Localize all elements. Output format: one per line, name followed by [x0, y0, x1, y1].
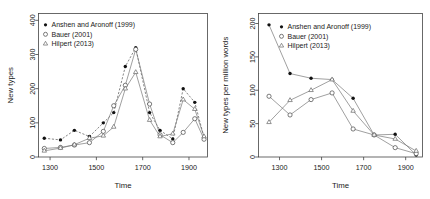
figure-root: 0100200300400 Anshen and Aronoff (1999)B… [0, 0, 430, 199]
x-axis-title: Time [332, 181, 349, 190]
data-point-filled-circle [102, 121, 105, 124]
series-line-0 [44, 48, 204, 140]
data-point-filled-circle [351, 97, 354, 100]
data-point-open-circle [181, 130, 185, 134]
plot-area-right: 050100150200 Anshen and Aronoff (1999)Ba… [248, 14, 423, 160]
data-point-filled-circle [73, 129, 76, 132]
y-tick-label: 0 [248, 155, 257, 159]
chart-panel-left: 0100200300400 Anshen and Aronoff (1999)B… [0, 0, 215, 199]
data-point-filled-circle [112, 111, 115, 114]
data-point-filled-circle [43, 137, 46, 140]
data-point-open-circle [171, 141, 175, 145]
data-point-open-circle [148, 102, 152, 106]
data-lines-left [44, 48, 204, 151]
legend-marker-filled-circle [280, 25, 283, 28]
y-axis-title: New types [6, 67, 15, 104]
series-line-1 [269, 93, 416, 154]
data-point-filled-circle [124, 65, 127, 68]
data-point-filled-circle [181, 87, 184, 90]
data-point-open-circle [193, 117, 197, 121]
legend-right: Anshen and Aronoff (1999)Bauer (2001)Hil… [279, 23, 371, 50]
data-point-filled-circle [393, 133, 396, 136]
legend-label-1: Bauer (2001) [52, 31, 93, 39]
data-point-open-triangle [147, 118, 152, 122]
axis-ticks-y-left: 0100200300400 [28, 14, 39, 159]
data-point-filled-circle [267, 23, 270, 26]
data-point-open-circle [267, 94, 271, 98]
data-point-open-triangle [171, 131, 176, 135]
data-point-open-triangle [101, 133, 106, 137]
y-tick-label: 100 [248, 84, 257, 96]
axis-ticks-y-right: 050100150200 [248, 18, 259, 159]
legend-label-0: Anshen and Aronoff (1999) [288, 23, 372, 31]
data-point-filled-circle [59, 138, 62, 141]
data-point-filled-circle [158, 129, 161, 132]
y-tick-label: 150 [248, 51, 257, 63]
data-point-open-circle [87, 141, 91, 145]
x-tick-label: 1700 [356, 163, 372, 172]
data-point-open-triangle [111, 124, 116, 128]
legend-marker-filled-circle [44, 23, 47, 26]
data-points-left [42, 46, 206, 152]
x-tick-label: 1300 [272, 163, 288, 172]
y-axis-title: New types per million words [221, 37, 230, 134]
data-point-filled-circle [171, 137, 174, 140]
data-point-open-circle [112, 104, 116, 108]
data-point-filled-circle [148, 111, 151, 114]
y-tick-label: 300 [28, 49, 37, 61]
data-point-filled-circle [193, 101, 196, 104]
legend-label-2: Hilpert (2013) [52, 40, 94, 48]
x-tick-label: 1500 [314, 163, 330, 172]
legend-marker-open-triangle [279, 43, 283, 47]
y-tick-label: 0 [28, 155, 37, 159]
x-tick-label: 1700 [135, 163, 151, 172]
data-point-filled-circle [288, 72, 291, 75]
data-point-open-triangle [133, 70, 138, 74]
data-point-open-circle [330, 91, 334, 95]
plot-area-left: 0100200300400 Anshen and Aronoff (1999)B… [28, 14, 208, 160]
chart-svg-left: 0100200300400 Anshen and Aronoff (1999)B… [0, 0, 215, 199]
data-point-open-circle [288, 113, 292, 117]
y-tick-label: 100 [28, 117, 37, 129]
data-point-open-triangle [193, 107, 198, 111]
chart-panel-right: 050100150200 Anshen and Aronoff (1999)Ba… [215, 0, 430, 199]
data-point-open-triangle [330, 77, 335, 81]
legend-marker-open-triangle [43, 41, 47, 45]
y-tick-label: 50 [248, 120, 257, 128]
data-point-open-circle [309, 98, 313, 102]
x-tick-label: 1900 [398, 163, 414, 172]
data-point-open-circle [134, 47, 138, 51]
y-tick-label: 200 [248, 18, 257, 30]
data-point-open-circle [351, 127, 355, 131]
x-tick-label: 1900 [181, 163, 197, 172]
chart-svg-right: 050100150200 Anshen and Aronoff (1999)Ba… [215, 0, 430, 199]
y-tick-label: 200 [28, 83, 37, 95]
legend-label-2: Hilpert (2013) [288, 42, 330, 50]
x-tick-label: 1500 [88, 163, 104, 172]
data-point-open-circle [393, 146, 397, 150]
legend-label-0: Anshen and Aronoff (1999) [52, 21, 136, 29]
x-axis-title: Time [114, 181, 131, 190]
legend-marker-open-circle [44, 32, 48, 36]
legend-label-1: Bauer (2001) [288, 33, 329, 41]
data-point-filled-circle [309, 77, 312, 80]
legend-left: Anshen and Aronoff (1999)Bauer (2001)Hil… [43, 21, 135, 48]
series-line-1 [44, 49, 204, 148]
x-tick-label: 1300 [42, 163, 58, 172]
legend-marker-open-circle [280, 34, 284, 38]
y-tick-label: 400 [28, 14, 37, 26]
